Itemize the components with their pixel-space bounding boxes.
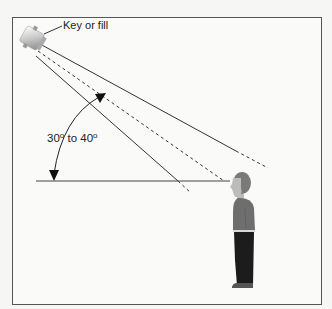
diagram-frame <box>13 18 322 305</box>
light-label-text: Key or fill <box>63 19 108 31</box>
degree-symbol: o <box>93 131 97 140</box>
lighting-angle-diagram <box>0 0 332 309</box>
person-belt <box>233 230 255 232</box>
person-pants <box>234 232 254 286</box>
angle-from: 30 <box>47 132 60 144</box>
angle-to: 40 <box>80 132 93 144</box>
person-shirt <box>233 198 255 231</box>
angle-to-word: to <box>67 132 77 144</box>
light-label: Key or fill <box>63 19 108 31</box>
degree-symbol: o <box>60 131 64 140</box>
person-shoe <box>232 283 253 288</box>
angle-label: 30o to 40o <box>47 131 98 144</box>
